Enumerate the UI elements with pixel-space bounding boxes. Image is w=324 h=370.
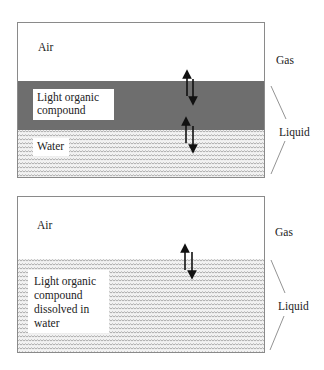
organic-label-line2: compound xyxy=(37,104,110,117)
dissolved-line1: Light organic xyxy=(34,274,105,288)
air-label: Air xyxy=(38,41,53,54)
gas-label-1: Gas xyxy=(276,54,294,67)
gas-label-2: Gas xyxy=(275,226,293,239)
organic-label-line1: Light organic xyxy=(37,91,110,104)
dissolved-compound-label: Light organic compound dissolved in wate… xyxy=(28,270,109,333)
organic-compound-label: Light organic compound xyxy=(33,89,114,120)
water-label: Water xyxy=(33,138,69,156)
water-label-text: Water xyxy=(37,140,64,152)
liquid-label-1: Liquid xyxy=(279,126,310,139)
diagram1-container: Air Light organic compound Water xyxy=(17,22,265,178)
air-label-2: Air xyxy=(37,219,52,232)
air-region-2 xyxy=(18,197,264,259)
dissolved-line2: compound xyxy=(34,288,105,302)
air-region xyxy=(18,23,264,81)
dissolved-line4: water xyxy=(34,316,105,330)
dissolved-line3: dissolved in xyxy=(34,302,105,316)
liquid-label-2: Liquid xyxy=(278,300,309,313)
diagram2-container: Air Light organic compound dissolved in … xyxy=(17,196,265,353)
